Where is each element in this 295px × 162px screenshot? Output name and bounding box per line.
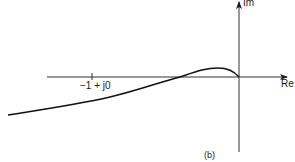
real-axis-label: Re — [281, 78, 294, 89]
nyquist-curve — [8, 68, 239, 115]
nyquist-diagram: −1 + j0 Re Im (b) — [0, 0, 295, 162]
imaginary-axis-label: Im — [243, 0, 254, 8]
subfigure-label: (b) — [204, 150, 215, 160]
critical-point-label: −1 + j0 — [80, 80, 111, 91]
